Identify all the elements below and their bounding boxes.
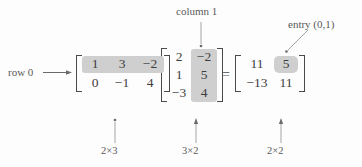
product-matrix: 11 5 −13 11 <box>235 55 305 92</box>
right-matrix: 2 −2 1 5 −3 4 <box>161 48 223 102</box>
matrix-a-cell-1-2: 4 <box>136 73 164 92</box>
matrix-c-cell-1-0: −13 <box>241 73 273 92</box>
dim-c-pointer <box>279 118 283 143</box>
product-matrix-close-bracket <box>299 55 305 92</box>
dimension-label-b: 3×2 <box>182 146 198 157</box>
matrix-c-cell-0-0: 11 <box>241 55 273 73</box>
dim-a-pointer <box>114 119 117 143</box>
dimension-label-a: 2×3 <box>101 146 117 157</box>
column-label: column 1 <box>176 6 217 17</box>
matrix-b-cell-2-1: 4 <box>191 84 217 102</box>
matrix-a-cell-0-2: −2 <box>136 55 164 73</box>
matrix-b-cell-1-1: 5 <box>191 66 217 84</box>
equals-sign: = <box>222 68 230 82</box>
matrix-b-cell-0-1: −2 <box>191 48 217 66</box>
left-matrix: 1 3 −2 0 −1 4 <box>76 55 170 92</box>
column-label-pointer <box>200 22 203 47</box>
dimension-label-c: 2×2 <box>267 146 283 157</box>
matrix-a-cell-0-1: 3 <box>108 55 136 73</box>
matrix-b-cell-0-0: 2 <box>167 48 191 66</box>
matrix-a-cell-1-0: 0 <box>82 73 108 92</box>
matrix-b-cell-2-0: −3 <box>167 84 191 102</box>
dim-b-pointer <box>194 118 198 143</box>
entry-label: entry (0,1) <box>288 19 334 30</box>
row-label: row 0 <box>8 67 33 78</box>
matrix-c-cell-1-1: 11 <box>273 73 299 92</box>
matrix-c-cell-0-1: 5 <box>273 55 299 73</box>
right-matrix-grid: 2 −2 1 5 −3 4 <box>167 48 217 102</box>
matrix-a-cell-0-0: 1 <box>82 55 108 73</box>
row-label-arrow <box>43 70 72 74</box>
matrix-a-cell-1-1: −1 <box>108 73 136 92</box>
product-matrix-grid: 11 5 −13 11 <box>241 55 299 92</box>
left-matrix-grid: 1 3 −2 0 −1 4 <box>82 55 164 92</box>
matrix-b-cell-1-0: 1 <box>167 66 191 84</box>
entry-label-pointer <box>285 30 308 53</box>
matrix-multiplication-figure: row 0 column 1 entry (0,1) 1 3 −2 0 −1 4… <box>0 0 362 167</box>
